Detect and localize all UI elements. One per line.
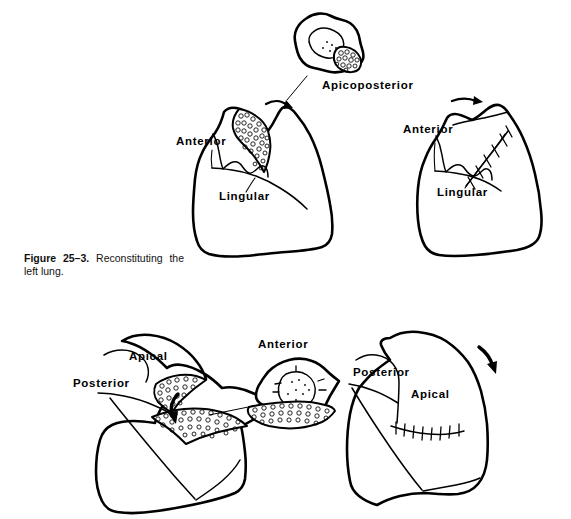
bottom-right-rotation-arrow-head: [487, 361, 497, 374]
figure-caption-label: Figure 25–3.: [24, 252, 89, 264]
top-left-rotation-arrow-head: [283, 100, 293, 109]
panel-bottom-middle-specimen: Anterior: [248, 338, 339, 428]
label-bottom-right-posterior: Posterior: [353, 366, 410, 378]
panel-top-segment-specimen: Apicoposterior: [287, 14, 414, 100]
label-bottom-right-apical: Apical: [411, 388, 450, 400]
panel-top-left-lung: Anterior Lingular: [176, 100, 332, 257]
panel-bottom-left-lung: Apical Posterior: [73, 335, 270, 513]
top-right-rotation-arrow-shaft: [452, 99, 476, 101]
bottom-right-lung-outline: [347, 332, 488, 505]
label-anterior-specimen: Anterior: [258, 338, 308, 350]
label-bottom-left-apical: Apical: [129, 350, 168, 362]
top-right-rotation-arrow-head: [473, 96, 483, 105]
figure-page: Apicoposterior: [0, 0, 571, 519]
label-top-left-anterior: Anterior: [176, 135, 226, 147]
label-top-left-lingular: Lingular: [219, 190, 270, 202]
figure-caption: Figure 25–3. Reconstituting the left lun…: [24, 252, 184, 278]
label-top-right-lingular: Lingular: [437, 186, 488, 198]
label-bottom-left-posterior: Posterior: [73, 377, 130, 389]
label-apicoposterior: Apicoposterior: [322, 79, 414, 91]
top-left-rotation-arrow-shaft: [266, 101, 287, 105]
panel-bottom-right-lung: Posterior Apical: [347, 332, 497, 505]
label-top-right-anterior: Anterior: [403, 123, 453, 135]
specimen-leader-top: [287, 76, 307, 100]
panel-top-right-lung: Anterior Lingular: [403, 96, 542, 256]
